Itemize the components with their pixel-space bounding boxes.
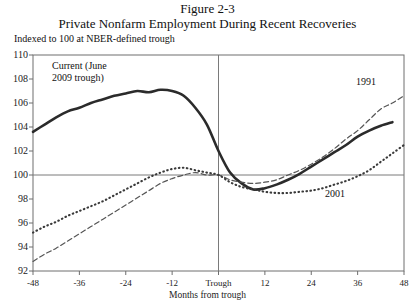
y-axis-tick-label: 92 [2, 266, 28, 276]
x-axis-tick-label: 36 [336, 278, 380, 288]
y-axis-tick-label: 110 [2, 50, 28, 60]
y-axis-tick-label: 96 [2, 218, 28, 228]
annotation-current: Current (June 2009 trough) [52, 60, 107, 84]
annotation-current-line2: 2009 trough) [52, 72, 107, 84]
x-axis-tick-label: Trough [197, 278, 241, 288]
y-axis-tick-label: 106 [2, 98, 28, 108]
annotation-current-line1: Current (June [52, 60, 107, 72]
y-axis-tick-label: 98 [2, 194, 28, 204]
x-axis-tick-label: -48 [11, 278, 55, 288]
annotation-1991: 1991 [356, 76, 376, 88]
y-axis-tick-label: 94 [2, 242, 28, 252]
x-axis-tick-label: -36 [57, 278, 101, 288]
y-axis-tick-label: 108 [2, 74, 28, 84]
x-axis-tick-label: 48 [382, 278, 415, 288]
y-axis-tick-label: 102 [2, 146, 28, 156]
annotation-2001: 2001 [325, 188, 345, 200]
x-axis-tick-label: 24 [289, 278, 333, 288]
y-axis-tick-label: 104 [2, 122, 28, 132]
figure-container: Figure 2-3 Private Nonfarm Employment Du… [0, 0, 415, 306]
chart-plot-area [0, 0, 415, 306]
x-axis-tick-label: -12 [150, 278, 194, 288]
x-axis-title: Months from trough [0, 290, 415, 301]
x-axis-tick-label: 12 [243, 278, 287, 288]
x-axis-tick-label: -24 [104, 278, 148, 288]
y-axis-tick-label: 100 [2, 170, 28, 180]
